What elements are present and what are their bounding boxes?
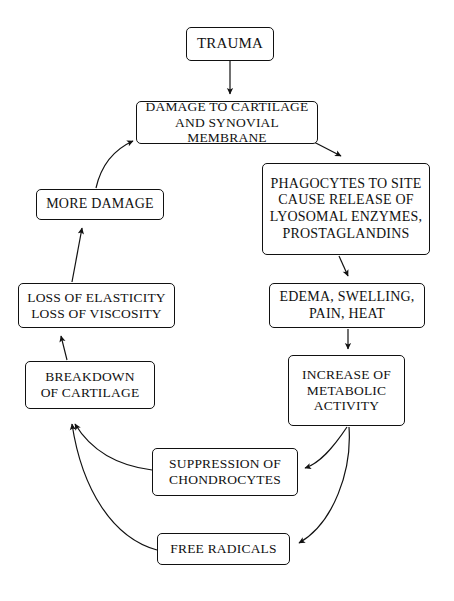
node-damage-to-cartilage[interactable]: DAMAGE TO CARTILAGE AND SYNOVIAL MEMBRAN… — [136, 101, 318, 144]
node-trauma[interactable]: TRAUMA — [186, 27, 274, 61]
node-free-radicals[interactable]: FREE RADICALS — [157, 533, 290, 565]
edge-breakdown-to-loss — [61, 336, 67, 360]
node-edema[interactable]: EDEMA, SWELLING, PAIN, HEAT — [269, 283, 425, 328]
edge-loss-to-more-damage — [72, 228, 82, 282]
edge-more-damage-to-damage — [96, 141, 133, 188]
edge-suppression-to-breakdown — [75, 424, 152, 470]
edge-free-radicals-to-breakdown — [72, 424, 157, 550]
flowchart-canvas: TRAUMA DAMAGE TO CARTILAGE AND SYNOVIAL … — [0, 0, 454, 601]
node-phagocytes[interactable]: PHAGOCYTES TO SITE CAUSE RELEASE OF LYOS… — [262, 163, 430, 255]
edge-increase-to-free-radicals — [299, 427, 349, 543]
node-breakdown-of-cartilage[interactable]: BREAKDOWN OF CARTILAGE — [25, 361, 155, 409]
edge-phagocytes-to-edema — [339, 256, 348, 276]
node-increase-metabolic-activity[interactable]: INCREASE OF METABOLIC ACTIVITY — [288, 355, 405, 426]
node-more-damage[interactable]: MORE DAMAGE — [36, 189, 164, 220]
node-suppression-of-chondrocytes[interactable]: SUPPRESSION OF CHONDROCYTES — [152, 448, 298, 496]
node-loss-of-elasticity[interactable]: LOSS OF ELASTICITY LOSS OF VISCOSITY — [18, 283, 175, 328]
edge-increase-to-suppression — [305, 427, 347, 468]
